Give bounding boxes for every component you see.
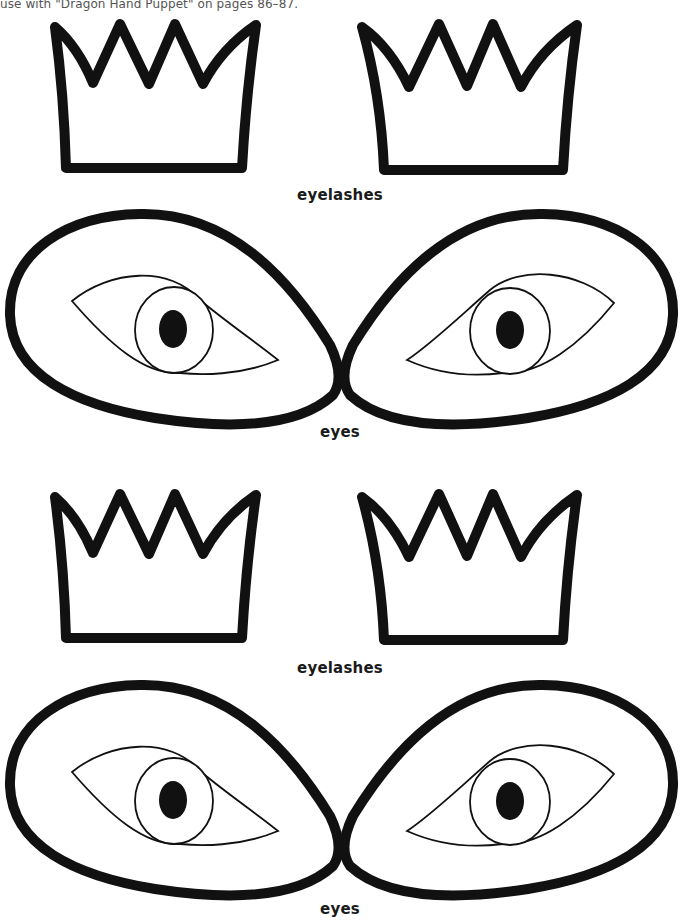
- eyes-label-1: eyes: [240, 423, 440, 441]
- eyelashes-cutout-left-1: [55, 24, 256, 168]
- eyes-label-2: eyes: [240, 900, 440, 918]
- eyelashes-cutout-right-1: [362, 24, 577, 170]
- eye-cutout-left-1: [10, 214, 339, 424]
- eyelashes-label-2: eyelashes: [240, 659, 440, 677]
- eye-cutout-right-2: [344, 685, 673, 895]
- eyelashes-cutout-left-2: [55, 494, 256, 638]
- eyelashes-label-1: eyelashes: [240, 186, 440, 204]
- template-artwork: [0, 0, 683, 920]
- eye-cutout-right-1: [344, 214, 673, 424]
- eyelashes-cutout-right-2: [362, 494, 577, 640]
- eye-cutout-left-2: [10, 685, 339, 895]
